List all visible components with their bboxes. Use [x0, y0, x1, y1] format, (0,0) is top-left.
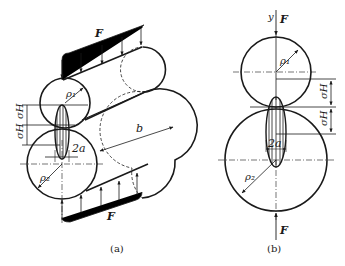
radius-label-top-a: ρ₁ [65, 88, 76, 99]
stress-label-bottom-a: σH [14, 123, 25, 139]
axis-label-b: y [267, 11, 274, 22]
force-label-bottom-a: F [106, 210, 116, 223]
radius-label-bottom-b: ρ₂ [244, 171, 255, 182]
radius-label-top-b: ρ₁ [279, 55, 290, 66]
force-label-bottom-b: F [279, 224, 289, 237]
caption-b: (b) [267, 243, 281, 254]
contact-stress-diagram: σH σH 2a ρ₁ ρ₂ b F [0, 0, 345, 266]
contact-width-label-b: 2a [267, 137, 282, 150]
stress-label-bottom-b: σH [318, 110, 329, 126]
force-label-top-a: F [94, 27, 104, 40]
stress-label-top-b: σH [318, 83, 329, 99]
figure-a: σH σH 2a ρ₁ ρ₂ b F [14, 25, 197, 254]
force-label-top-b: F [279, 13, 289, 26]
stress-label-top-a: σH [14, 103, 25, 119]
length-label-a: b [136, 122, 143, 135]
contact-stress-ellipse-b [266, 90, 286, 170]
radius-label-bottom-a: ρ₂ [39, 172, 50, 183]
figure-b: y F σH σH 2a [218, 10, 336, 254]
contact-width-label-a: 2a [71, 142, 86, 155]
distributed-load-top-a [62, 25, 144, 80]
caption-a: (a) [110, 243, 124, 254]
